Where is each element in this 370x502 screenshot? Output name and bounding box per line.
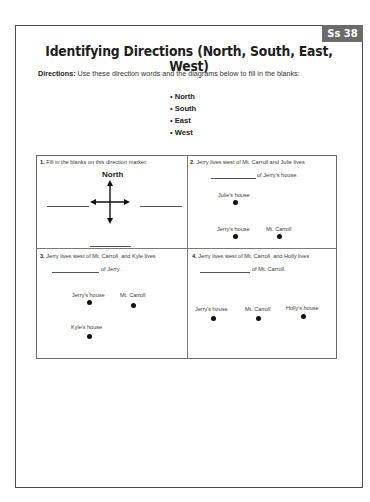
directions-text: Directions: Use these direction words an… xyxy=(38,69,300,78)
question-2-after-blank: of Jerry's house. xyxy=(257,172,298,178)
question-3-text: 3. Jerry lives west of Mt. Carroll, and … xyxy=(40,253,156,259)
place-label: Jerry's house xyxy=(72,292,105,298)
south-answer-blank[interactable] xyxy=(90,246,131,247)
place-label: Kyle's house xyxy=(71,324,102,330)
question-3-after-blank: of Jerry. xyxy=(101,266,121,272)
location-dot xyxy=(131,303,136,308)
location-dot xyxy=(233,234,238,239)
place-label: Holly's house xyxy=(286,305,319,311)
question-1-text: 1. Fill in the blanks on this direction … xyxy=(40,159,147,165)
question-4-text: 4. Jerry lives west of Mt. Carroll, and … xyxy=(192,253,309,259)
location-dot xyxy=(233,200,238,205)
compass-arrows-icon xyxy=(90,180,130,224)
location-dot xyxy=(301,314,306,319)
east-answer-blank[interactable] xyxy=(140,206,182,207)
directions-label: Directions: xyxy=(38,69,76,78)
word-bank-item: North xyxy=(170,91,196,103)
question-2-answer-blank[interactable] xyxy=(211,178,256,179)
place-label: Mt. Carroll xyxy=(245,306,270,312)
word-bank-item: South xyxy=(170,103,196,115)
question-2-text: 2. Jerry lives west of Mt. Carroll and J… xyxy=(190,159,305,165)
grid-divider-horizontal xyxy=(36,248,337,249)
place-label: Mt. Carroll xyxy=(120,292,145,298)
location-dot xyxy=(256,316,261,321)
page-badge: Ss 38 xyxy=(322,25,363,42)
directions-body: Use these direction words and the diagra… xyxy=(78,69,300,78)
compass-north-label: North xyxy=(102,170,123,179)
word-bank: North South East West xyxy=(170,91,196,139)
question-4-answer-blank[interactable] xyxy=(200,272,250,273)
place-label: Julie's house xyxy=(218,192,250,198)
west-answer-blank[interactable] xyxy=(47,206,89,207)
place-label: Jerry's house xyxy=(217,226,250,232)
word-bank-item: East xyxy=(170,115,196,127)
place-label: Jerry's house xyxy=(195,306,228,312)
location-dot xyxy=(87,300,92,305)
place-label: Mt. Carroll xyxy=(266,226,291,232)
location-dot xyxy=(211,316,216,321)
location-dot xyxy=(277,234,282,239)
grid-divider-vertical xyxy=(187,155,188,359)
question-3-answer-blank[interactable] xyxy=(52,272,99,273)
location-dot xyxy=(87,334,92,339)
word-bank-item: West xyxy=(170,127,196,139)
question-4-after-blank: of Mt. Carroll. xyxy=(252,266,286,272)
